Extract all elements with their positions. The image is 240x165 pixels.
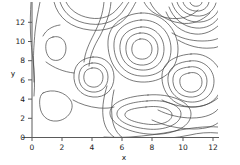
- x-axis-title: x: [122, 153, 127, 162]
- contour-path: [126, 33, 158, 65]
- y-tick-label: 8: [20, 56, 25, 65]
- contour-path: [169, 7, 219, 28]
- x-tick-label: 12: [208, 143, 218, 152]
- contour-path: [66, 2, 123, 19]
- y-tick-label: 10: [15, 37, 25, 46]
- contour-path: [104, 127, 218, 138]
- contour-path: [73, 100, 114, 108]
- y-tick-label: 12: [15, 18, 25, 27]
- contour-path: [46, 37, 66, 61]
- contour-path: [152, 120, 219, 129]
- x-tick-label: 4: [90, 143, 95, 152]
- y-axis-ticks: [28, 22, 32, 137]
- contour-path: [177, 2, 216, 16]
- contour-path: [190, 2, 202, 6]
- y-axis-title: y: [11, 69, 16, 78]
- contour-lines: [30, 2, 222, 138]
- contour-path: [120, 27, 164, 70]
- contour-path: [84, 68, 103, 87]
- x-tick-label: 6: [120, 143, 125, 152]
- contour-path: [108, 13, 178, 82]
- contour-path: [114, 20, 171, 76]
- plot-canvas: 0 2 4 6 8 10 12 0 2 4 6 8 10 12 x y: [0, 0, 240, 165]
- x-tick-label: 0: [30, 143, 35, 152]
- x-tick-label: 8: [150, 143, 155, 152]
- contour-path: [103, 86, 114, 137]
- x-tick-label: 10: [178, 143, 188, 152]
- y-tick-label: 6: [20, 76, 25, 85]
- contour-path: [89, 2, 111, 66]
- contour-path: [34, 2, 41, 82]
- x-axis-ticks: [32, 138, 213, 142]
- contour-path: [43, 25, 60, 36]
- contour-path: [40, 91, 73, 121]
- x-tick-label: 2: [60, 143, 65, 152]
- contour-path: [125, 106, 172, 124]
- contour-path: [162, 54, 222, 107]
- contour-path: [112, 90, 123, 138]
- y-tick-labels: 0 2 4 6 8 10 12: [15, 18, 25, 142]
- contour-plot-figure: 0 2 4 6 8 10 12 0 2 4 6 8 10 12 x y: [0, 0, 240, 165]
- contour-path: [46, 62, 74, 73]
- x-tick-labels: 0 2 4 6 8 10 12: [30, 143, 218, 152]
- contour-path: [150, 2, 210, 24]
- contour-path: [144, 2, 198, 19]
- y-tick-label: 2: [20, 114, 25, 123]
- y-tick-label: 4: [20, 95, 25, 104]
- y-tick-label: 0: [20, 133, 25, 142]
- contour-path: [79, 63, 108, 92]
- axis-spines: [22, 2, 219, 138]
- contour-path: [132, 39, 152, 59]
- contour-path: [84, 2, 104, 62]
- contour-path: [180, 72, 202, 92]
